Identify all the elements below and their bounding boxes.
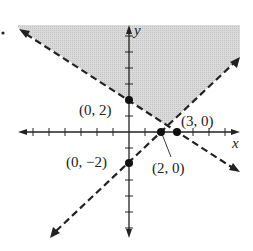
leader-line: [162, 134, 171, 157]
label-0-neg2: (0, −2): [66, 154, 107, 171]
item-bullet: [1, 31, 4, 34]
point-0-neg2: [125, 159, 133, 167]
label-2-0: (2, 0): [152, 160, 185, 177]
point-0-2: [125, 96, 133, 104]
y-axis-label: y: [132, 22, 141, 38]
label-3-0: (3, 0): [181, 113, 214, 130]
point-3-0: [173, 128, 181, 136]
point-2-0: [157, 128, 165, 136]
label-0-2: (0, 2): [79, 102, 112, 119]
inequality-graph: x y: [0, 0, 253, 251]
x-axis-label: x: [231, 135, 239, 151]
